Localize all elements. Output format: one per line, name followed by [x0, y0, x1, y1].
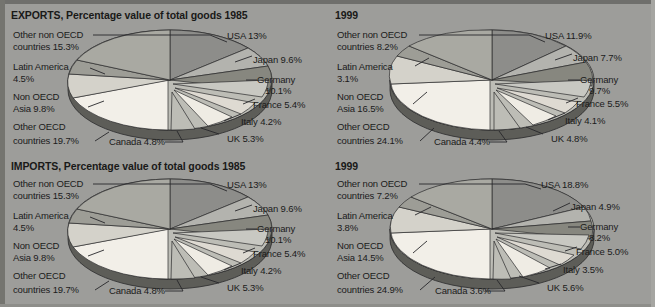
label-other-non-oecd-line1: Other non OECD — [13, 178, 83, 190]
pie-body — [389, 30, 594, 140]
label-latin-america-line2: 3.8% — [337, 222, 358, 234]
label-italy: Italy 4.2% — [241, 116, 281, 128]
label-germany-line1: Germany — [257, 74, 295, 86]
label-france: France 5.4% — [253, 248, 305, 260]
label-non-oecd-asia-line2: Asia 16.5% — [337, 103, 384, 115]
label-other-oecd-line2: countries 24.1% — [337, 135, 403, 147]
label-france: France 5.4% — [253, 99, 305, 111]
label-non-oecd-asia-line2: Asia 9.8% — [13, 252, 54, 264]
label-non-oecd-asia-line1: Non OECD — [337, 91, 383, 103]
label-germany-line2: 10.1% — [265, 234, 291, 246]
label-germany-line1: Germany — [580, 74, 618, 86]
label-canada: Canada 4.8% — [109, 285, 165, 297]
label-canada: Canada 3.6% — [435, 285, 491, 297]
page-frame-right — [651, 0, 655, 307]
label-other-oecd-line1: Other OECD — [13, 270, 65, 282]
label-uk: UK 5.3% — [227, 133, 263, 145]
label-other-oecd-line1: Other OECD — [337, 121, 389, 133]
label-germany-line2: 8.2% — [589, 232, 610, 244]
label-japan: Japan 9.6% — [253, 54, 302, 66]
infographic-page: EXPORTS, Percentage value of total goods… — [0, 0, 655, 307]
label-germany-line2: 9.7% — [589, 85, 610, 97]
label-latin-america-line2: 4.5% — [13, 222, 34, 234]
label-france: France 5.5% — [576, 98, 628, 110]
label-other-non-oecd-line2: countries 8.2% — [337, 41, 398, 53]
label-non-oecd-asia-line2: Asia 9.8% — [13, 103, 54, 115]
label-france: France 5.0% — [576, 246, 628, 258]
label-japan: Japan 9.6% — [253, 203, 302, 215]
label-italy: Italy 4.1% — [565, 115, 605, 127]
label-usa: USA 13% — [227, 179, 267, 191]
label-canada: Canada 4.8% — [109, 136, 165, 148]
label-germany-line2: 10.1% — [265, 85, 291, 97]
label-uk: UK 5.3% — [227, 282, 263, 294]
label-non-oecd-asia-line1: Non OECD — [337, 240, 383, 252]
label-other-non-oecd-line1: Other non OECD — [13, 29, 83, 41]
label-latin-america-line2: 3.1% — [337, 73, 358, 85]
label-non-oecd-asia-line1: Non OECD — [13, 240, 59, 252]
label-non-oecd-asia-line1: Non OECD — [13, 91, 59, 103]
label-other-oecd-line2: countries 19.7% — [13, 135, 79, 147]
label-other-non-oecd-line2: countries 7.2% — [337, 190, 398, 202]
label-latin-america-line1: Latin America — [13, 210, 69, 222]
label-non-oecd-asia-line2: Asia 14.5% — [337, 252, 384, 264]
label-other-non-oecd-line2: countries 15.3% — [13, 190, 79, 202]
label-latin-america-line1: Latin America — [337, 61, 393, 73]
panel-imports-1999: 1999 — [327, 155, 651, 304]
label-uk: UK 5.6% — [547, 282, 583, 294]
label-latin-america-line1: Latin America — [337, 210, 393, 222]
slice-other-oecd — [391, 80, 490, 130]
label-other-non-oecd-line2: countries 15.3% — [13, 41, 79, 53]
label-other-oecd-line2: countries 19.7% — [13, 284, 79, 296]
label-uk: UK 4.8% — [551, 133, 587, 145]
label-italy: Italy 4.2% — [241, 265, 281, 277]
label-other-oecd-line1: Other OECD — [13, 121, 65, 133]
label-japan: Japan 7.7% — [573, 52, 622, 64]
label-usa: USA 11.9% — [545, 30, 592, 42]
label-canada: Canada 4.4% — [434, 136, 490, 148]
label-italy: Italy 3.5% — [563, 264, 603, 276]
panel-imports-1985: IMPORTS, Percentage value of total goods… — [5, 155, 327, 304]
panel-exports-1985: EXPORTS, Percentage value of total goods… — [5, 4, 327, 155]
label-other-oecd-line1: Other OECD — [337, 270, 389, 282]
label-usa: USA 18.8% — [541, 179, 588, 191]
slice-other-oecd — [391, 229, 490, 279]
label-other-oecd-line2: countries 24.9% — [337, 284, 403, 296]
label-germany-line1: Germany — [580, 221, 618, 233]
label-other-non-oecd-line1: Other non OECD — [337, 29, 407, 41]
label-latin-america-line2: 4.5% — [13, 73, 34, 85]
panel-exports-1999: 1999 — [327, 4, 651, 155]
label-japan: Japan 4.9% — [571, 201, 620, 213]
label-other-non-oecd-line1: Other non OECD — [337, 178, 407, 190]
label-usa: USA 13% — [227, 30, 267, 42]
label-latin-america-line1: Latin America — [13, 61, 69, 73]
label-germany-line1: Germany — [257, 223, 295, 235]
